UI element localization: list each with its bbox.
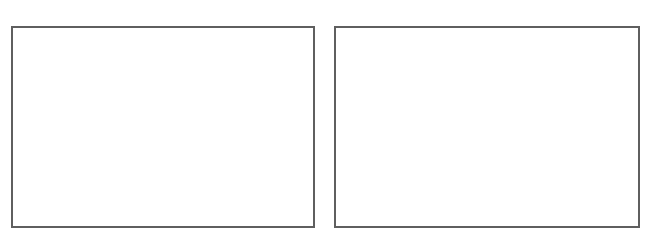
empty-panel-right — [334, 26, 640, 228]
empty-panel-left — [11, 26, 315, 228]
